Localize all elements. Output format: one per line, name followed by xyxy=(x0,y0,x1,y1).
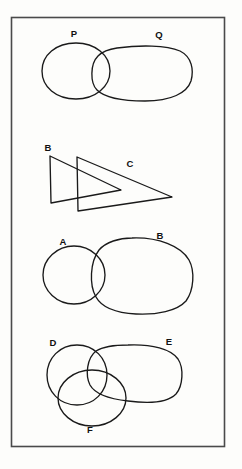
label-c: C xyxy=(127,158,134,169)
shape-b xyxy=(50,156,121,203)
panel-d-e-f: D E F xyxy=(47,336,182,435)
panel-b-c: B C xyxy=(45,142,172,211)
label-p: P xyxy=(71,28,78,39)
label-b-panel3: B xyxy=(157,230,164,241)
diagram-canvas: P Q B C A B D E F xyxy=(0,0,242,469)
shape-c xyxy=(77,157,172,211)
panel-a-b: A B xyxy=(43,230,193,314)
panel-p-q: P Q xyxy=(42,28,192,101)
label-a: A xyxy=(60,236,67,247)
figure-root: P Q B C A B D E F xyxy=(0,0,242,469)
label-q: Q xyxy=(155,29,162,40)
label-f: F xyxy=(87,424,93,435)
shape-q xyxy=(92,46,192,101)
shape-d xyxy=(47,345,107,405)
shape-f xyxy=(58,370,126,426)
label-b: B xyxy=(45,142,52,153)
label-d: D xyxy=(50,337,57,348)
shape-p xyxy=(42,43,110,99)
label-e: E xyxy=(166,336,172,347)
figure-frame xyxy=(12,18,225,447)
shape-b2 xyxy=(91,238,192,314)
